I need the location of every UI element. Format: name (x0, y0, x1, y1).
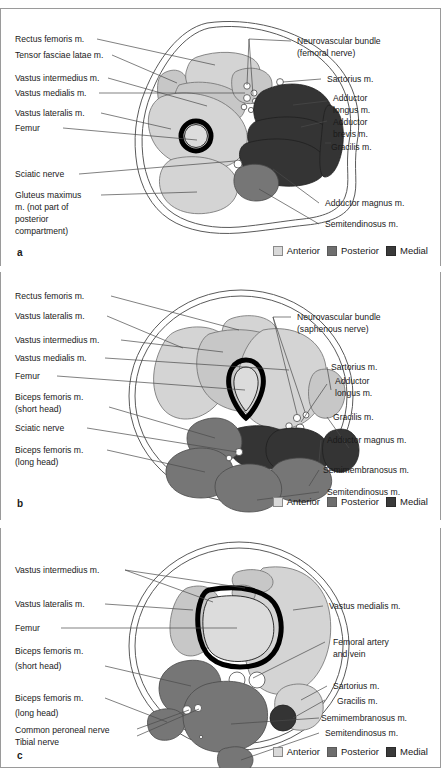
label-a-left-7: Gluteus maximus (15, 190, 81, 200)
label-b-right-3: Adductor (335, 376, 370, 386)
legend-label-medial: Medial (400, 245, 428, 256)
label-c-right-4: Gracilis m. (337, 696, 378, 706)
panel-b: Rectus femoris m. Vastus lateralis m. Va… (0, 272, 441, 520)
legend-label-posterior: Posterior (341, 746, 379, 757)
legend-item-anterior: Anterior (273, 746, 320, 757)
legend-item-medial: Medial (386, 496, 428, 507)
label-a-left-1: Tensor fasciae latae m. (15, 50, 103, 60)
label-c-left-3: Biceps femoris m. (15, 646, 83, 656)
legend-swatch-anterior-icon (273, 246, 283, 256)
legend-label-posterior: Posterior (341, 496, 379, 507)
label-a-right-4: longus m. (333, 105, 370, 115)
label-c-right-1: Femoral artery (333, 637, 390, 647)
legend-swatch-medial-icon (386, 246, 396, 256)
thigh-cross-section-figure: Rectus femoris m. Tensor fasciae latae m… (0, 0, 441, 773)
label-c-left-6: (long head) (15, 708, 59, 718)
legend-swatch-posterior-icon (327, 497, 337, 507)
legend-swatch-posterior-icon (327, 747, 337, 757)
label-a-right-0: Neurovascular bundle (297, 36, 381, 46)
legend-swatch-anterior-icon (273, 497, 283, 507)
panel-b-illustration-main: Rectus femoris m. Vastus lateralis m. Va… (1, 272, 441, 520)
panel-a-illustration: Rectus femoris m. Tensor fasciae latae m… (1, 9, 441, 267)
panel-a: Rectus femoris m. Tensor fasciae latae m… (0, 8, 441, 266)
label-b-right-5: Gracilis m. (333, 412, 374, 422)
legend-swatch-anterior-icon (273, 747, 283, 757)
legend-label-anterior: Anterior (287, 496, 320, 507)
legend-item-anterior: Anterior (273, 496, 320, 507)
legend-item-medial: Medial (386, 746, 428, 757)
label-c-left-1: Vastus lateralis m. (15, 599, 85, 609)
panel-letter-a: a (17, 247, 23, 258)
legend-item-anterior: Anterior (273, 245, 320, 256)
legend-swatch-medial-icon (386, 747, 396, 757)
label-a-left-0: Rectus femoris m. (15, 34, 84, 44)
label-c-right-0: Vastus medialis m. (329, 601, 400, 611)
label-b-left-8: Biceps femoris m. (15, 445, 83, 455)
label-a-right-2: Sartorius m. (327, 74, 373, 84)
label-b-left-7: Sciatic nerve (15, 423, 64, 433)
label-a-left-9: posterior (15, 214, 49, 224)
label-b-left-2: Vastus intermedius m. (15, 335, 99, 345)
legend-label-medial: Medial (400, 746, 428, 757)
label-a-right-6: brevis m. (333, 129, 368, 139)
label-b-left-9: (long head) (15, 457, 59, 467)
label-a-right-1: (femoral nerve) (297, 48, 355, 58)
label-b-left-3: Vastus medialis m. (15, 353, 86, 363)
label-a-left-2: Vastus intermedius m. (15, 73, 99, 83)
label-a-left-6: Sciatic nerve (15, 169, 64, 179)
legend-label-anterior: Anterior (287, 746, 320, 757)
label-b-right-0: Neurovascular bundle (297, 312, 381, 322)
label-a-left-8: m. (not part of (15, 202, 69, 212)
legend-item-posterior: Posterior (327, 245, 379, 256)
legend-c: Anterior Posterior Medial (273, 746, 428, 757)
legend-item-medial: Medial (386, 245, 428, 256)
legend-label-anterior: Anterior (287, 245, 320, 256)
label-a-right-7: Gracilis m. (331, 142, 372, 152)
label-b-right-7: Semimembranosus m. (323, 465, 409, 475)
label-a-right-3: Adductor (333, 93, 368, 103)
label-b-left-4: Femur (15, 371, 40, 381)
legend-item-posterior: Posterior (327, 746, 379, 757)
label-a-left-10: compartment) (15, 226, 68, 236)
label-b-right-1: (saphenous nerve) (297, 324, 369, 334)
label-b-left-1: Vastus lateralis m. (15, 311, 85, 321)
legend-swatch-posterior-icon (327, 246, 337, 256)
label-b-right-4: longus m. (335, 388, 372, 398)
label-a-right-8: Adductor magnus m. (325, 198, 404, 208)
label-c-right-3: Sartorius m. (333, 681, 379, 691)
label-b-right-2: Sartorius m. (331, 362, 377, 372)
legend-b: Anterior Posterior Medial (273, 496, 428, 507)
label-c-left-2: Femur (15, 623, 40, 633)
label-c-right-2: and vein (333, 649, 366, 659)
legend-swatch-medial-icon (386, 497, 396, 507)
label-a-right-5: Adductor (333, 117, 368, 127)
panel-letter-b: b (17, 498, 23, 509)
label-c-right-6: Semitendinosus m. (325, 728, 398, 738)
label-c-left-4: (short head) (15, 661, 61, 671)
label-c-left-8: Tibial nerve (15, 737, 59, 747)
legend-label-medial: Medial (400, 496, 428, 507)
label-a-left-4: Vastus lateralis m. (15, 108, 85, 118)
label-b-right-6: Adductor magnus m. (327, 435, 406, 445)
label-b-left-0: Rectus femoris m. (15, 291, 84, 301)
legend-a: Anterior Posterior Medial (273, 245, 428, 256)
panel-letter-c: c (17, 750, 23, 761)
panel-c-illustration: Vastus intermedius m. Vastus lateralis m… (1, 528, 441, 768)
legend-label-posterior: Posterior (341, 245, 379, 256)
panel-c: Vastus intermedius m. Vastus lateralis m… (0, 528, 441, 768)
label-a-right-9: Semitendinosus m. (325, 219, 398, 229)
label-b-left-6: (short head) (15, 404, 61, 414)
label-c-left-0: Vastus intermedius m. (15, 565, 99, 575)
legend-item-posterior: Posterior (327, 496, 379, 507)
label-c-right-5: Semimembranosus m. (321, 713, 407, 723)
label-c-left-5: Biceps femoris m. (15, 693, 83, 703)
label-c-left-7: Common peroneal nerve (15, 725, 110, 735)
label-a-left-3: Vastus medialis m. (15, 88, 86, 98)
label-b-left-5: Biceps femoris m. (15, 392, 83, 402)
label-a-left-5: Femur (15, 123, 40, 133)
